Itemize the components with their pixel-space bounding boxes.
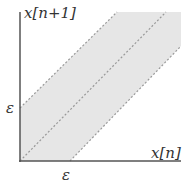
epsilon-band — [20, 12, 181, 161]
y-axis-label: x[n+1] — [24, 4, 76, 22]
x-epsilon-tick-label: ε — [62, 166, 70, 184]
y-epsilon-tick-label: ε — [6, 99, 14, 117]
x-axis-label: x[n] — [151, 144, 181, 162]
